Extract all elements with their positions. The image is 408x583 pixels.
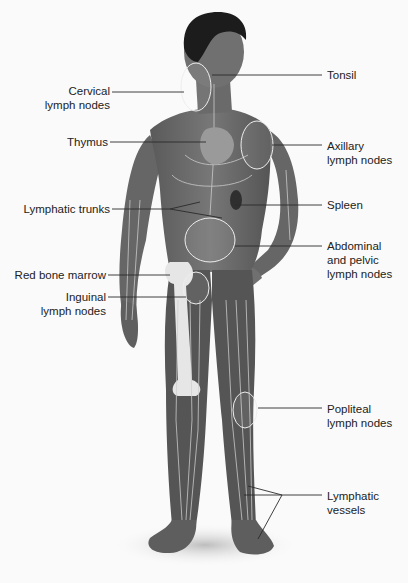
label-line: vessels xyxy=(327,503,379,517)
label-line: lymph nodes xyxy=(327,416,392,430)
axillary-region-circle xyxy=(241,121,273,169)
label-line: and pelvic xyxy=(327,253,392,267)
label-lymphatic-trunks: Lymphatic trunks xyxy=(10,202,110,216)
label-line: lymph nodes xyxy=(40,98,110,112)
label-axillary-lymph-nodes: Axillary lymph nodes xyxy=(327,139,392,167)
label-line: lymph nodes xyxy=(327,153,392,167)
left-foot xyxy=(231,520,274,554)
label-line: Inguinal xyxy=(30,290,106,304)
right-hand xyxy=(121,300,138,348)
label-line: Cervical xyxy=(40,84,110,98)
label-popliteal-lymph-nodes: Popliteal lymph nodes xyxy=(327,402,392,430)
label-lymphatic-vessels: Lymphatic vessels xyxy=(327,489,379,517)
label-line: Abdominal xyxy=(327,239,392,253)
label-line: lymph nodes xyxy=(30,304,106,318)
right-arm xyxy=(119,135,162,330)
label-line: Lymphatic trunks xyxy=(10,202,110,216)
label-line: Axillary xyxy=(327,139,392,153)
label-line: Red bone marrow xyxy=(10,268,106,282)
inguinal-region-circle xyxy=(183,272,209,304)
spleen-organ xyxy=(230,190,242,210)
cervical-region-circle xyxy=(181,63,211,111)
label-thymus: Thymus xyxy=(40,135,108,149)
abdominal-region-circle xyxy=(185,218,235,262)
label-inguinal-lymph-nodes: Inguinal lymph nodes xyxy=(30,290,106,318)
label-cervical-lymph-nodes: Cervical lymph nodes xyxy=(40,84,110,112)
popliteal-region-circle xyxy=(233,392,257,428)
label-line: Spleen xyxy=(327,198,363,212)
label-tonsil: Tonsil xyxy=(327,68,356,82)
label-red-bone-marrow: Red bone marrow xyxy=(10,268,106,282)
label-line: lymph nodes xyxy=(327,267,392,281)
label-line: Tonsil xyxy=(327,68,356,82)
label-spleen: Spleen xyxy=(327,198,363,212)
label-abdominal-pelvic-lymph-nodes: Abdominal and pelvic lymph nodes xyxy=(327,239,392,281)
lymphatic-diagram: Cervical lymph nodes Thymus Lymphatic tr… xyxy=(0,0,408,583)
label-line: Thymus xyxy=(40,135,108,149)
label-line: Lymphatic xyxy=(327,489,379,503)
label-line: Popliteal xyxy=(327,402,392,416)
